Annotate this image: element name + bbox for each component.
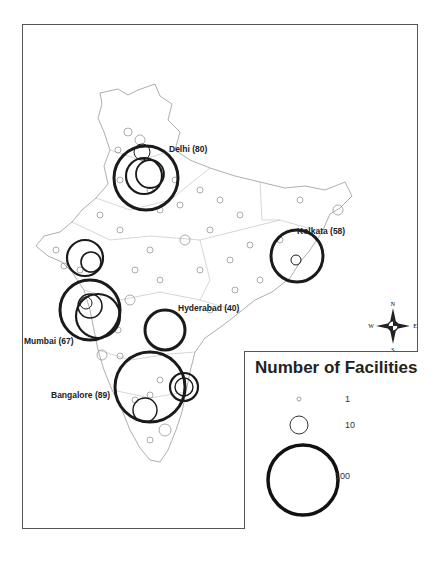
svg-text:E: E (413, 323, 417, 329)
legend: Number of Facilities 1 10 100 (244, 351, 418, 529)
city-label-bangalore: Bangalore (89) (51, 390, 110, 400)
city-label-kolkata: Kolkata (58) (297, 226, 345, 236)
svg-text:N: N (391, 301, 396, 307)
legend-label-100: 100 (335, 471, 350, 481)
city-label-mumbai: Mumbai (67) (24, 336, 74, 346)
legend-label-10: 10 (345, 420, 355, 430)
legend-circle-10 (290, 416, 308, 434)
city-label-hyderabad: Hyderabad (40) (178, 303, 239, 313)
svg-text:W: W (368, 323, 374, 329)
legend-label-1: 1 (345, 394, 350, 404)
compass-rose-icon: N S W E (368, 300, 418, 352)
city-label-delhi: Delhi (80) (169, 144, 207, 154)
legend-circle-100 (268, 445, 338, 515)
legend-circle-1 (297, 397, 301, 401)
